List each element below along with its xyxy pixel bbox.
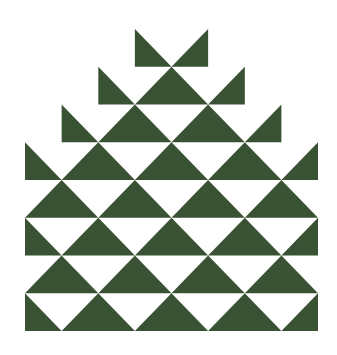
triangle-shape [245,256,318,294]
triangle-shape [172,105,245,143]
triangle-shape [281,293,318,331]
triangle-shape [25,256,98,294]
triangle-shape [135,218,208,256]
triangle-shape [172,29,209,67]
triangle-shape [172,180,245,218]
triangle-shape [25,180,98,218]
triangle-pattern-artwork [0,0,337,355]
triangle-shape [62,293,135,331]
triangle-shape [135,293,208,331]
triangle-shape [208,293,281,331]
triangle-shape [98,105,171,143]
triangle-shape [62,142,135,180]
triangle-shape [98,180,171,218]
triangle-shape [62,218,135,256]
triangle-shape [25,142,62,180]
triangle-shape [135,67,208,105]
triangle-shape [135,29,172,67]
triangle-shape [172,256,245,294]
triangle-shape [208,67,245,105]
triangle-shape [25,293,62,331]
triangle-shape [25,218,62,256]
triangle-shape [62,105,99,143]
triangle-shape [281,142,318,180]
triangle-shape [208,142,281,180]
triangle-shape [98,256,171,294]
triangle-shape [245,180,318,218]
triangle-shape [281,218,318,256]
triangle-shape [208,218,281,256]
triangle-shape [245,105,282,143]
triangle-shape [135,142,208,180]
pattern-svg [0,0,337,355]
triangle-shape [98,67,135,105]
